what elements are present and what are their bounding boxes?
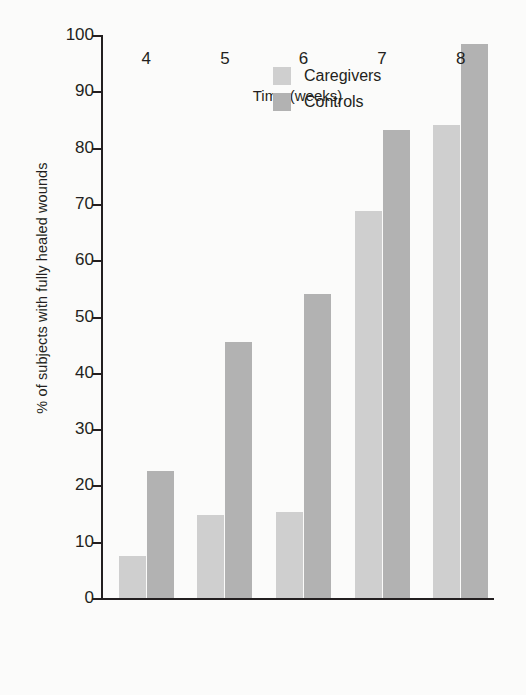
x-tick-label: 8 [431,49,491,69]
bar [276,512,303,598]
y-tick-label: 30 [75,419,94,438]
y-tick-label: 20 [75,475,94,494]
chart-legend: CaregiversControls [273,63,381,115]
bar-group [355,35,410,598]
x-tick-label: 5 [195,49,255,69]
bar [119,556,146,598]
y-tick-label: 100 [66,25,94,44]
y-tick-label: 70 [75,194,94,213]
legend-item: Controls [273,89,381,115]
bar [355,211,382,598]
bar-group [197,35,252,598]
bar [461,44,488,598]
legend-label: Controls [304,93,364,111]
bar [383,130,410,598]
legend-swatch-icon [273,93,291,111]
x-tick-label: 4 [116,49,176,69]
bar [225,342,252,598]
y-tick-label: 80 [75,138,94,157]
y-tick-label: 40 [75,363,94,382]
y-tick-label: 10 [75,532,94,551]
bar [304,294,331,598]
y-tick-label: 90 [75,81,94,100]
bar-group [119,35,174,598]
x-axis-line [101,598,494,600]
legend-label: Caregivers [304,67,381,85]
y-tick-label: 0 [85,588,94,607]
y-tick-label: 60 [75,250,94,269]
bar-groups [103,35,494,598]
bar [433,125,460,598]
legend-swatch-icon [273,67,291,85]
bar-group [276,35,331,598]
bar [147,471,174,598]
bar-group [433,35,488,598]
chart-figure: % of subjects with fully healed wounds 0… [0,0,526,695]
y-tick-label: 50 [75,307,94,326]
legend-item: Caregivers [273,63,381,89]
y-axis-title: % of subjects with fully healed wounds [34,8,50,568]
plot-area: 0102030405060708090100 45678 Time (weeks… [101,35,494,598]
bar [197,515,224,598]
